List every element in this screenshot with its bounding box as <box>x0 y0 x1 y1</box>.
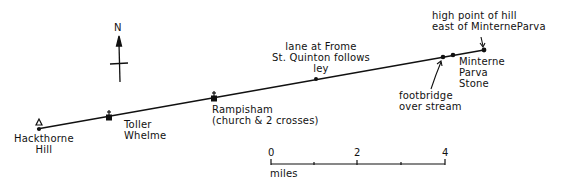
label-minterne-parva-stone: Minterne Parva Stone <box>459 56 505 89</box>
label-rampisham: Rampisham (church & 2 crosses) <box>212 104 319 126</box>
church-icon <box>212 91 217 101</box>
label-frome-st-quintin: lane at Frome St. Quinton follows ley <box>272 41 370 74</box>
ley-point-dot-icon <box>482 48 487 53</box>
label-toller-whelme: Toller Whelme <box>124 119 166 141</box>
scale-tick-2: 2 <box>354 147 361 158</box>
scale-unit-label: miles <box>270 168 298 179</box>
scale-tick-0: 0 <box>268 147 275 158</box>
north-label: N <box>114 22 122 33</box>
arrow-icon <box>431 61 442 89</box>
label-footbridge: footbridge over stream <box>399 90 462 112</box>
ley-point-dot-icon <box>451 53 456 58</box>
scale-tick-4: 4 <box>442 147 449 158</box>
church-icon <box>107 110 112 120</box>
arrow-icon <box>480 37 485 47</box>
ley-point-dot-icon <box>314 77 318 81</box>
ley-line-map: N Hackthorne Hill Toller Whelme Rampisha… <box>0 0 568 184</box>
label-hackthorne-hill: Hackthorne Hill <box>14 133 74 155</box>
ley-point-dot-icon <box>441 55 446 60</box>
scale-bar <box>271 159 445 165</box>
north-arrow-icon <box>110 36 128 82</box>
label-hill-high-point: high point of hill east of MinterneParva <box>432 10 546 32</box>
hilltop-triangle-icon <box>36 119 42 131</box>
